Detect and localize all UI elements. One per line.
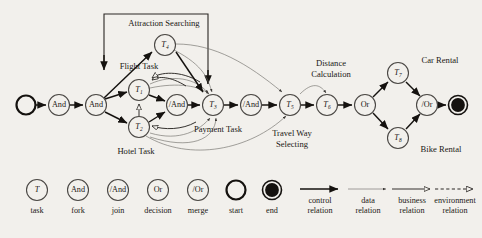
legend-node-label: And	[71, 185, 85, 194]
leg-data[interactable]: datarelation	[348, 189, 386, 215]
node-t5[interactable]: T5	[280, 95, 301, 116]
node-label: Or	[361, 100, 370, 109]
ann-distance-1: Distance	[316, 58, 346, 68]
leg-business-caption-line1: business	[398, 196, 426, 205]
leg-decision-caption: decision	[144, 206, 171, 215]
legend-start-circle	[227, 181, 246, 200]
leg-merge-caption: merge	[188, 206, 209, 215]
leg-join[interactable]: /Andjoin	[108, 180, 129, 216]
node-label: /And	[169, 100, 185, 109]
node-t1[interactable]: T1	[129, 80, 150, 101]
leg-business[interactable]: businessrelation	[392, 189, 430, 215]
ann-hotel: Hotel Task	[117, 146, 155, 156]
node-t8[interactable]: T8	[388, 128, 409, 149]
ann-attraction: Attraction Searching	[128, 18, 200, 28]
leg-environment-caption-line1: environment	[434, 196, 476, 205]
node-label: And	[52, 100, 66, 109]
ann-travelway-2: Selecting	[276, 139, 309, 149]
leg-control-caption-line2: relation	[307, 206, 332, 215]
workflow-diagram: AndAndT4T1T2/AndT3/AndT5T6OrT7T8/Or Attr…	[0, 0, 482, 238]
control-relation-group	[36, 52, 446, 129]
end-node-dot	[451, 98, 465, 112]
leg-start[interactable]: start	[227, 181, 246, 216]
start-node-circle	[17, 96, 36, 115]
leg-join-caption: join	[111, 206, 125, 215]
legend-end-dot	[265, 183, 279, 197]
ann-travelway-1: Travel Way	[272, 128, 312, 138]
ann-carrental: Car Rental	[422, 55, 460, 65]
node-and2[interactable]: And	[86, 95, 107, 116]
node-end[interactable]	[449, 96, 468, 115]
diagram-canvas: AndAndT4T1T2/AndT3/AndT5T6OrT7T8/Or Attr…	[0, 0, 482, 238]
leg-start-caption: start	[229, 206, 244, 215]
node-or1[interactable]: Or	[355, 95, 376, 116]
leg-environment[interactable]: environmentrelation	[434, 189, 476, 215]
leg-control[interactable]: controlrelation	[300, 189, 338, 215]
legend-node-label: /And	[110, 185, 126, 194]
leg-task-caption: task	[30, 206, 44, 215]
ann-flight: Flight Task	[120, 61, 159, 71]
leg-environment-caption-line2: relation	[442, 206, 467, 215]
leg-control-caption-line1: control	[308, 196, 332, 205]
ann-bikerental: Bike Rental	[421, 144, 462, 154]
leg-business-caption-line2: relation	[399, 206, 424, 215]
legend-node-label: /Or	[193, 185, 204, 194]
node-and1[interactable]: And	[49, 95, 70, 116]
leg-fork-caption: fork	[71, 206, 86, 215]
leg-data-caption-line2: relation	[355, 206, 380, 215]
legend-node-label: Or	[154, 185, 163, 194]
leg-data-caption-line1: data	[361, 196, 375, 205]
legend: TtaskAndfork/AndjoinOrdecision/Ormergest…	[27, 180, 477, 216]
node-label: And	[89, 100, 103, 109]
node-t4[interactable]: T4	[155, 35, 176, 56]
node-start[interactable]	[17, 96, 36, 115]
node-t7[interactable]: T7	[388, 63, 409, 84]
node-or2[interactable]: /Or	[417, 95, 438, 116]
ann-distance-2: Calculation	[311, 69, 351, 79]
node-label: /Or	[422, 100, 433, 109]
leg-decision[interactable]: Ordecision	[144, 180, 171, 216]
leg-end[interactable]: end	[263, 181, 282, 216]
node-label: /And	[243, 100, 259, 109]
ann-payment: Payment Task	[194, 124, 243, 134]
node-join2[interactable]: /And	[241, 95, 262, 116]
leg-end-caption: end	[266, 206, 278, 215]
leg-task[interactable]: Ttask	[27, 180, 48, 216]
leg-merge[interactable]: /Ormerge	[188, 180, 209, 216]
node-t3[interactable]: T3	[203, 95, 224, 116]
node-t6[interactable]: T6	[317, 95, 338, 116]
node-t2[interactable]: T2	[129, 117, 150, 138]
node-join1[interactable]: /And	[167, 95, 188, 116]
leg-fork[interactable]: Andfork	[68, 180, 89, 216]
